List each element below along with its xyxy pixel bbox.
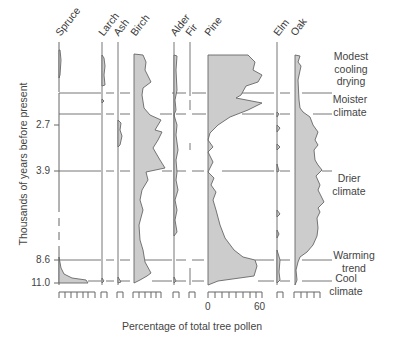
curve-birch	[134, 54, 165, 283]
zone-boundaries	[59, 93, 332, 281]
curve-elm	[277, 112, 280, 283]
zone-label-modest-cooling: Modest cooling drying	[322, 50, 380, 88]
y-axis	[54, 42, 59, 285]
y-axis-label: Thousands of years before present	[17, 69, 29, 259]
curve-larch	[102, 55, 105, 86]
x-axis-ticks	[59, 292, 320, 298]
x-axis-label: Percentage of total tree pollen	[122, 320, 262, 332]
curve-spruce	[59, 50, 61, 78]
pollen-curves	[59, 42, 324, 285]
zone-label-moister: Moister climate	[322, 93, 378, 118]
zone-label-drier: Drier climate	[322, 172, 376, 197]
zone-label-cool: Cool climate	[322, 272, 370, 297]
curve-ash	[118, 120, 122, 147]
zone-label-warming: Warming trend	[322, 249, 386, 274]
curve-pine	[208, 55, 262, 285]
curve-oak	[295, 55, 324, 285]
xtick-0: 0	[205, 301, 211, 312]
curve-alder	[174, 55, 178, 236]
curve-spruce-base	[59, 257, 88, 283]
xtick-60: 60	[254, 301, 265, 312]
ytick-11-0: 11.0	[20, 277, 50, 288]
